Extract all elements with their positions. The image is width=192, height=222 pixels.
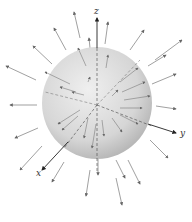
x-axis	[42, 142, 68, 170]
y-axis	[148, 124, 176, 133]
x-axis-label: x	[36, 168, 41, 178]
z-axis-label: z	[93, 6, 99, 16]
vector-field-figure: z y x	[0, 0, 192, 222]
sphere-diagram: z y x	[0, 0, 192, 222]
y-axis-label: y	[179, 128, 186, 138]
